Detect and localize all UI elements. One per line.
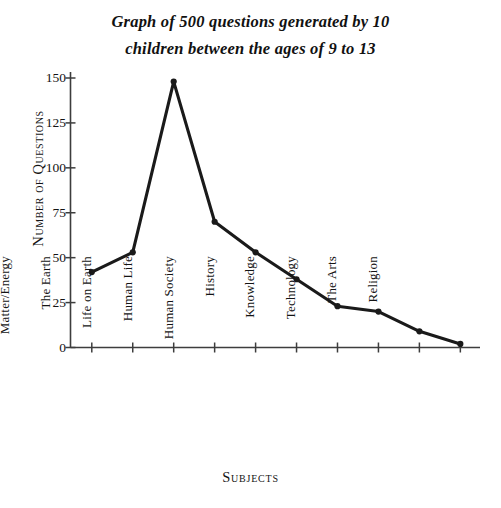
x-axis-category-label: Human Life bbox=[120, 256, 136, 356]
x-axis-category-label: Matter/Energy bbox=[0, 256, 13, 356]
x-axis-category-labels: Matter/EnergyThe EarthLife on EarthHuman… bbox=[0, 0, 501, 508]
x-axis-title: Subjects bbox=[0, 469, 501, 486]
x-axis-category-label: Religion bbox=[365, 256, 381, 356]
x-axis-category-label: Human Society bbox=[161, 256, 177, 356]
x-axis-category-label: Knowledge bbox=[242, 256, 258, 356]
x-axis-category-label: History bbox=[202, 256, 218, 356]
chart-plot-area: 0255075100125150 Number of Questions Mat… bbox=[0, 0, 501, 508]
x-axis-category-label: Technology bbox=[283, 256, 299, 356]
x-axis-category-label: Life on Earth bbox=[79, 256, 95, 356]
x-axis-category-label: The Arts bbox=[324, 256, 340, 356]
x-axis-category-label: The Earth bbox=[38, 256, 54, 356]
